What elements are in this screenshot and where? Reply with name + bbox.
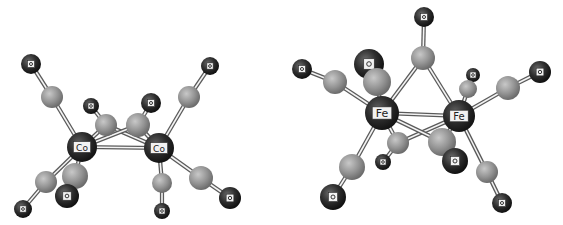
iron-atom: Fe	[365, 96, 399, 130]
carbon-atom	[189, 166, 213, 190]
oxygen-atom	[529, 61, 551, 83]
atom-label-box	[159, 208, 165, 214]
oxygen-atom	[21, 54, 41, 74]
oxygen-atom	[320, 184, 346, 210]
atom-label-box	[28, 61, 35, 68]
carbon-atom	[339, 154, 365, 180]
oxygen-atom	[83, 98, 99, 114]
atom-label: Co	[76, 143, 88, 153]
oxygen-atom	[201, 57, 219, 75]
carbon-atom	[411, 46, 435, 70]
carbon-atom	[178, 86, 200, 108]
carbon-atom	[41, 86, 63, 108]
carbon-atom	[126, 113, 150, 137]
atom-label-box	[364, 59, 375, 70]
atom-label: Fe	[453, 111, 464, 122]
atom-label-box	[299, 66, 306, 73]
carbon-atom	[387, 132, 409, 154]
carbon-atom	[152, 173, 172, 193]
bonds	[302, 17, 540, 203]
oxygen-atom	[219, 187, 241, 209]
oxygen-atom	[442, 148, 468, 174]
carbon-atom	[35, 171, 57, 193]
carbon-atom	[476, 161, 498, 183]
iron-atom: Fe	[443, 100, 475, 132]
atom-label-box	[226, 194, 234, 202]
carbon-atom	[363, 68, 391, 96]
atom-label-box	[536, 68, 544, 76]
oxygen-atom	[154, 203, 170, 219]
fe2-co9-molecule: FeFe	[292, 7, 551, 213]
co2-co8-molecule: CoCo	[14, 54, 241, 219]
atom-label-box	[20, 206, 26, 212]
molecular-structures-figure: CoCo FeFe	[0, 0, 563, 225]
cobalt-atom: Co	[67, 132, 97, 162]
oxygen-atom	[375, 154, 391, 170]
oxygen-atom	[492, 193, 512, 213]
oxygen-atom	[414, 7, 434, 27]
carbon-atom	[95, 114, 117, 136]
atom-label-box	[88, 103, 94, 109]
atom-label-box	[421, 14, 428, 21]
carbon-atom	[323, 70, 347, 94]
oxygen-atom	[292, 59, 312, 79]
oxygen-atom	[466, 68, 480, 82]
cobalt-atom: Co	[144, 133, 174, 163]
atom-label-box	[470, 72, 476, 78]
atom-label: Co	[153, 144, 165, 154]
atom-label-box	[328, 192, 337, 201]
carbon-atom	[459, 80, 477, 98]
oxygen-atom	[14, 200, 32, 218]
atom-label-box	[148, 100, 155, 107]
atom-label-box	[63, 192, 71, 200]
carbon-atom	[496, 76, 520, 100]
atom-label-box	[207, 63, 213, 69]
atom-label-box	[380, 159, 386, 165]
atom-label: Fe	[376, 107, 389, 120]
atom-label-box	[499, 200, 506, 207]
oxygen-atom	[141, 93, 161, 113]
atom-label-box	[450, 156, 459, 165]
oxygen-atom	[55, 184, 79, 208]
